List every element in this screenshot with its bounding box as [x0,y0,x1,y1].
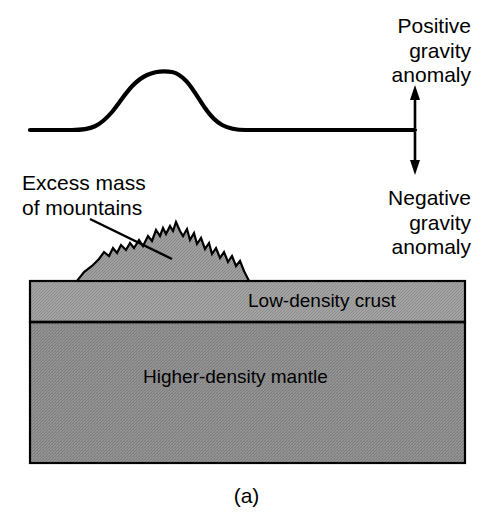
excess-mass-label: Excess mass of mountains [22,171,146,220]
gravity-anomaly-curve [30,71,415,130]
arrow-down-icon [410,132,420,175]
low-density-crust-label: Low-density crust [248,290,396,312]
higher-density-mantle-label: Higher-density mantle [143,366,328,388]
mantle-block [30,322,465,463]
arrow-up-icon [410,85,420,128]
positive-gravity-anomaly-label: Positive gravity anomaly [392,14,471,88]
negative-gravity-anomaly-label: Negative gravity anomaly [388,186,471,260]
isostasy-diagram: Positive gravity anomaly Negative gravit… [0,0,493,526]
figure-caption: (a) [0,484,493,509]
